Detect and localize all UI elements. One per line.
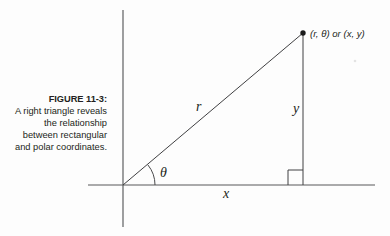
theta-arc	[148, 165, 155, 185]
radius-label: r	[196, 99, 202, 114]
figure-container: FIGURE 11-3: A right triangle reveals th…	[0, 0, 390, 236]
x-leg-label: x	[222, 186, 230, 201]
paper-speck	[354, 60, 357, 63]
coordinate-diagram: (r, θ) or (x, y) r y x θ	[0, 0, 390, 236]
theta-label: θ	[160, 165, 167, 180]
hypotenuse-line	[123, 33, 303, 185]
point-coordinates-label: (r, θ) or (x, y)	[310, 28, 365, 39]
right-angle-icon	[288, 170, 303, 185]
y-leg-label: y	[291, 101, 300, 116]
point-marker	[300, 30, 305, 35]
